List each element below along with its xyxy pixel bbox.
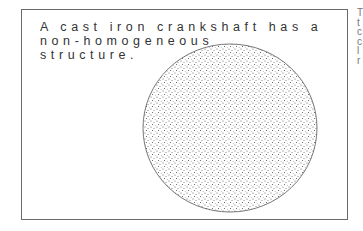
stippled-circle xyxy=(143,44,317,212)
caption-line: non-homogeneous xyxy=(40,34,340,48)
caption-line: structure. xyxy=(40,48,340,62)
cropped-side-text: T t c c l r xyxy=(357,8,363,65)
caption-line: A cast iron crankshaft has a xyxy=(40,20,340,34)
side-line: r xyxy=(357,56,363,66)
caption-text: A cast iron crankshaft has a non-homogen… xyxy=(40,20,340,62)
